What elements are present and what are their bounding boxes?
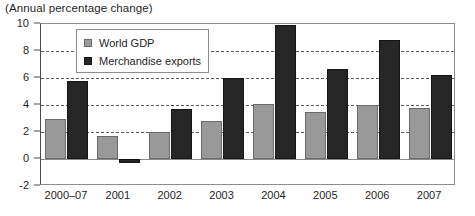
chart-legend: World GDP Merchandise exports [76,29,209,73]
legend-swatch-icon-merchandise-exports [84,57,92,65]
y-tick-label-8: 8 [23,44,29,56]
y-tick-label-4: 4 [23,98,29,110]
legend-label-world-gdp: World GDP [99,38,154,49]
bar [253,104,274,159]
bar [305,112,326,159]
bar [119,159,140,163]
bar [409,108,430,159]
y-tick-label--2: -2 [19,179,29,191]
legend-item-merchandise-exports: Merchandise exports [84,52,208,70]
legend-label-merchandise-exports: Merchandise exports [99,56,201,67]
bar [275,25,296,159]
x-tick-label-2004: 2004 [261,189,285,201]
legend-item-world-gdp: World GDP [84,34,208,52]
y-tick-label-6: 6 [23,71,29,83]
x-tick-label-2000–07: 2000–07 [45,189,88,201]
y-tick-label-10: 10 [17,17,29,29]
x-tick-label-2005: 2005 [313,189,337,201]
legend-swatch-icon-world-gdp [84,39,92,47]
chart-title: (Annual percentage change) [5,2,153,14]
bar [357,105,378,159]
bar [327,69,348,159]
x-tick-label-2002: 2002 [157,189,181,201]
bar [431,75,452,159]
bar [379,40,400,159]
bar [223,78,244,159]
bar [67,81,88,159]
bar [97,136,118,159]
x-axis: 2000–072001200220032004200520062007 [40,187,455,207]
bar [171,109,192,159]
x-tick-label-2003: 2003 [209,189,233,201]
bar [201,121,222,159]
y-axis: -20246810 [0,23,40,185]
y-tick-label-0: 0 [23,152,29,164]
bar [149,132,170,159]
x-tick-label-2006: 2006 [365,189,389,201]
bar-chart: (Annual percentage change) -20246810 200… [0,0,475,216]
bar [45,119,66,160]
y-tick-label-2: 2 [23,125,29,137]
x-tick-label-2001: 2001 [106,189,130,201]
x-tick-label-2007: 2007 [417,189,441,201]
